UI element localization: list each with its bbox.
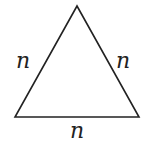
right-side-label: n <box>116 48 130 73</box>
bottom-side-label: n <box>70 118 84 143</box>
left-side-label: n <box>16 48 30 73</box>
triangle-diagram: n n n <box>0 0 145 149</box>
